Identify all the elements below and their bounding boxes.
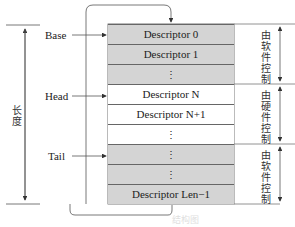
ellipsis-cell-3: ⋮ <box>108 144 234 164</box>
software-control-label-top: 由软件控制 <box>257 30 272 85</box>
ellipsis-cell-2: ⋮ <box>108 124 234 144</box>
ellipsis: ⋮ <box>166 69 176 78</box>
figure-caption: 结构图 <box>172 214 199 226</box>
descriptor-cell-0: Descriptor 0 <box>108 24 234 44</box>
base-pointer-label: Base <box>45 29 66 41</box>
hardware-control-label: 由硬件控制 <box>257 90 272 145</box>
ellipsis: ⋮ <box>166 169 176 178</box>
descriptor-cell-last: Descriptor Len−1 <box>108 184 234 204</box>
descriptor-cell-n: Descriptor N <box>108 84 234 104</box>
tail-pointer-label: Tail <box>48 150 65 162</box>
descriptor-cell-1: Descriptor 1 <box>108 44 234 64</box>
ellipsis: ⋮ <box>166 129 176 138</box>
ellipsis-cell-4: ⋮ <box>108 164 234 184</box>
length-label: 长度 <box>8 105 23 127</box>
software-control-label-bottom: 由软件控制 <box>257 150 272 205</box>
head-pointer-label: Head <box>45 90 68 102</box>
descriptor-cell-n-plus-1: Descriptor N+1 <box>108 104 234 124</box>
ellipsis-cell-1: ⋮ <box>108 64 234 84</box>
ellipsis: ⋮ <box>166 149 176 158</box>
